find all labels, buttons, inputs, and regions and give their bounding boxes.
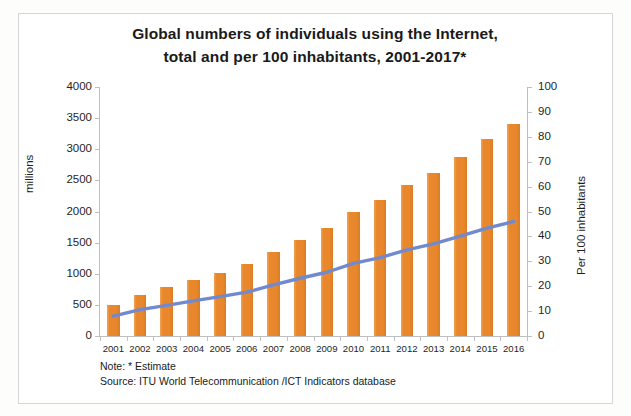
y-axis-left-tick-label: 1500 [44, 237, 92, 249]
x-tick [527, 336, 528, 341]
y-axis-right-tick-label: 20 [538, 280, 572, 292]
y-axis-right-tick-label: 50 [538, 206, 572, 218]
x-tick [340, 336, 341, 341]
y-tick-right [527, 162, 532, 163]
x-tick [233, 336, 234, 341]
y-axis-left-tick-label: 3500 [44, 112, 92, 124]
y-tick-right [527, 187, 532, 188]
chart-footnote: Note: * Estimate Source: ITU World Telec… [100, 359, 396, 389]
y-axis-left-tick-label: 500 [44, 299, 92, 311]
y-axis-left-tick-label: 0 [44, 330, 92, 342]
y-axis-right-tick-label: 70 [538, 156, 572, 168]
x-tick [367, 336, 368, 341]
y-axis-right-tick-label: 100 [538, 81, 572, 93]
x-tick [180, 336, 181, 341]
x-tick [127, 336, 128, 341]
y-tick-right [527, 87, 532, 88]
chart-figure: Global numbers of individuals using the … [0, 0, 631, 416]
y-axis-left-tick-label: 3000 [44, 143, 92, 155]
x-tick [500, 336, 501, 341]
x-tick [314, 336, 315, 341]
plot-area [100, 87, 527, 336]
x-axis-tick-label: 2016 [497, 344, 531, 354]
footnote-source: Source: ITU World Telecommunication /ICT… [100, 374, 396, 389]
x-tick [153, 336, 154, 341]
y-tick-right [527, 286, 532, 287]
y-axis-title-left: millions [23, 155, 35, 193]
x-tick [287, 336, 288, 341]
line-path-per-100-inhabitants [113, 221, 513, 316]
y-tick-right [527, 236, 532, 237]
x-tick [207, 336, 208, 341]
title-line-1: Global numbers of individuals using the … [40, 22, 590, 45]
y-tick-right [527, 137, 532, 138]
x-tick [394, 336, 395, 341]
y-tick-right [527, 212, 532, 213]
y-axis-right-tick-label: 30 [538, 255, 572, 267]
x-tick [260, 336, 261, 341]
y-axis-right-tick-label: 60 [538, 181, 572, 193]
y-axis-right-tick-label: 80 [538, 131, 572, 143]
x-tick [447, 336, 448, 341]
chart-title: Global numbers of individuals using the … [40, 22, 590, 68]
x-tick [474, 336, 475, 341]
y-tick-right [527, 112, 532, 113]
title-line-2: total and per 100 inhabitants, 2001-2017… [40, 45, 590, 68]
footnote-note: Note: * Estimate [100, 359, 396, 374]
y-axis-right-tick-label: 10 [538, 305, 572, 317]
y-axis-right-tick-label: 40 [538, 230, 572, 242]
y-axis-left-tick-label: 2000 [44, 206, 92, 218]
line-series [100, 87, 527, 336]
y-tick-right [527, 261, 532, 262]
x-tick [420, 336, 421, 341]
y-axis-right-tick-label: 0 [538, 330, 572, 342]
y-axis-right-tick-label: 90 [538, 106, 572, 118]
x-tick [100, 336, 101, 341]
y-axis-left-tick-label: 4000 [44, 81, 92, 93]
y-axis-title-right: Per 100 inhabitants [575, 176, 587, 275]
y-axis-left-tick-label: 2500 [44, 174, 92, 186]
y-axis-left-tick-label: 1000 [44, 268, 92, 280]
y-tick-right [527, 311, 532, 312]
